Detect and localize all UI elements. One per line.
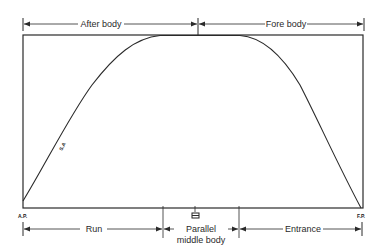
arrowhead-icon (24, 22, 30, 27)
aft-perpendicular-label: A.P. (18, 213, 28, 219)
arrowhead-icon (191, 22, 197, 27)
frame-rectangle (23, 35, 363, 208)
run-label: Run (86, 224, 103, 234)
after-body-label: After body (80, 19, 122, 29)
curve-label: S.A (58, 141, 67, 152)
entrance-label: Entrance (285, 224, 321, 234)
arrowhead-icon (24, 227, 30, 232)
arrowhead-icon (355, 227, 361, 232)
fore-perpendicular-label: F.P. (357, 213, 366, 219)
sectional-area-diagram: After body Fore body S.A A.P. F.P. Run P… (0, 0, 390, 251)
top-dimension-line (23, 18, 364, 36)
arrowhead-icon (357, 22, 363, 27)
parallel-label: Parallel (186, 224, 216, 234)
arrowhead-icon (199, 22, 205, 27)
arrowhead-icon (156, 227, 162, 232)
middle-body-label: middle body (177, 235, 226, 245)
arrowhead-icon (164, 227, 170, 232)
arrowhead-icon (232, 227, 238, 232)
sectional-area-curve (23, 36, 361, 209)
fore-body-label: Fore body (266, 19, 307, 29)
arrowhead-icon (240, 227, 246, 232)
